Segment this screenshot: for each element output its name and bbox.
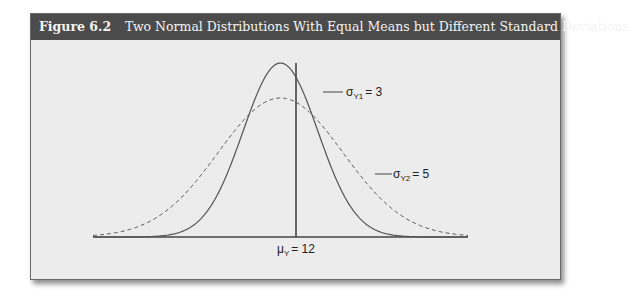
curve-sd-3 xyxy=(93,63,468,237)
sigma2-label: σY2= 5 xyxy=(393,167,430,183)
sigma1-label: σY1= 3 xyxy=(346,85,383,101)
mean-label: μY= 12 xyxy=(277,242,315,258)
